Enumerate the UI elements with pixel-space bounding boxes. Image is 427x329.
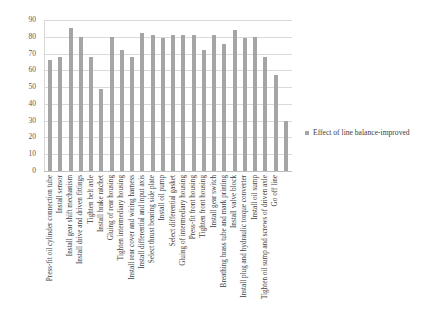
x-axis-label-slot: Tighten oil sump and screws of driven ax…	[260, 172, 270, 327]
bar-slot	[250, 20, 260, 171]
bar	[274, 75, 278, 171]
bar	[192, 35, 196, 171]
x-axis-label: Install oil sump	[252, 175, 259, 220]
x-axis-label: Install gear switch	[211, 175, 218, 228]
bar-slot	[168, 20, 178, 171]
bar-slot	[260, 20, 270, 171]
x-axis-label-slot: Install brake ratchet	[96, 172, 106, 327]
x-axis-label-slot: Tighten front housing	[199, 172, 209, 327]
y-axis-tick: 60	[29, 67, 37, 75]
y-axis-tick: 90	[29, 16, 37, 24]
y-axis-tick: 10	[29, 150, 37, 158]
y-axis-tick: 0	[32, 167, 36, 175]
bar	[110, 37, 114, 171]
x-axis-label-slot: Press-fit oil cylinder connection tube	[45, 172, 55, 327]
bar-slot	[209, 20, 219, 171]
bar-slot	[271, 20, 281, 171]
bar	[181, 35, 185, 171]
bar-slot	[127, 20, 137, 171]
legend-swatch-icon	[305, 131, 309, 135]
x-axis-label: Tighten front housing	[200, 175, 207, 237]
bar	[284, 121, 288, 171]
x-axis-label: Install plug and hydraulic torque conver…	[241, 175, 248, 298]
y-axis-tick: 50	[29, 83, 37, 91]
bar-slot	[219, 20, 229, 171]
bar-slot	[107, 20, 117, 171]
bar	[48, 60, 52, 171]
x-axis-label: Install oil pump	[159, 175, 166, 221]
bar-slot	[189, 20, 199, 171]
bar	[151, 35, 155, 171]
bar-slot	[178, 20, 188, 171]
bar-slot	[45, 20, 55, 171]
bar	[99, 89, 103, 171]
x-axis-label: Install drive and driven fittings	[77, 175, 84, 264]
bar	[79, 37, 83, 171]
chart-legend: Effect of line balance-improved	[305, 129, 410, 137]
bar-slot	[137, 20, 147, 171]
x-axis-label-slot: Select differential gasket	[168, 172, 178, 327]
x-axis-label: Install rear cover and wiring harness	[129, 175, 136, 280]
x-axis-label: Press-fit front housing	[190, 175, 197, 239]
x-axis-label: Tighten intermediary housing	[118, 175, 125, 260]
x-axis-label: Go off line	[272, 175, 279, 206]
bar-series	[44, 20, 292, 171]
bar	[161, 38, 165, 171]
x-axis-label-slot: Gluing of rear housing	[107, 172, 117, 327]
x-axis-label-slot: Install rear cover and wiring harness	[127, 172, 137, 327]
legend-label: Effect of line balance-improved	[313, 129, 410, 137]
x-axis-label-slot: Tighten belt axle	[86, 172, 96, 327]
y-axis-tick: 80	[29, 33, 37, 41]
x-axis-label: Install sensor	[57, 175, 64, 213]
x-axis-label-slot: Tighten intermediary housing	[117, 172, 127, 327]
y-axis-tick: 40	[29, 100, 37, 108]
x-axis-label: Install gear shift mechanism	[67, 175, 74, 256]
bar-slot	[230, 20, 240, 171]
x-axis-label-slot	[281, 172, 291, 327]
bar	[263, 57, 267, 171]
bar-slot	[117, 20, 127, 171]
x-axis-label-slot: Install drive and driven fittings	[76, 172, 86, 327]
bar-slot	[240, 20, 250, 171]
x-axis-label-slot: Press-fit front housing	[189, 172, 199, 327]
bar	[130, 57, 134, 171]
bar	[171, 35, 175, 171]
x-axis-label: Install valve block	[231, 175, 238, 228]
x-axis-label-slot: Go off line	[271, 172, 281, 327]
bar	[69, 28, 73, 171]
x-axis-label-slot: Install gear shift mechanism	[66, 172, 76, 327]
y-axis: 0102030405060708090	[0, 20, 40, 171]
bar	[233, 30, 237, 171]
bar-slot	[281, 20, 291, 171]
bar-slot	[86, 20, 96, 171]
bar-slot	[76, 20, 86, 171]
x-axis-label-slot: Install valve block	[230, 172, 240, 327]
x-axis-label: Select differential gasket	[170, 175, 177, 246]
x-axis-label: Breathing brass tube and mark printing	[221, 175, 228, 287]
x-axis-label: Install differential and input axis	[139, 175, 146, 269]
y-axis-tick: 30	[29, 117, 37, 125]
bar	[253, 37, 257, 171]
y-axis-tick: 70	[29, 50, 37, 58]
x-axis-labels: Press-fit oil cylinder connection tubeIn…	[44, 172, 292, 327]
bar	[202, 50, 206, 171]
x-axis-label-slot: Install differential and input axis	[137, 172, 147, 327]
y-axis-tick: 20	[29, 134, 37, 142]
bar-slot	[96, 20, 106, 171]
x-axis-label-slot: Install sensor	[55, 172, 65, 327]
x-axis-label-slot: Breathing brass tube and mark printing	[219, 172, 229, 327]
bar	[243, 38, 247, 171]
x-axis-label: Select thrust bearing side plate	[149, 175, 156, 263]
x-axis-label-slot: Install oil sump	[250, 172, 260, 327]
x-axis-label: Gluing of intermediary housing	[180, 175, 187, 266]
x-axis-label: Install brake ratchet	[98, 175, 105, 232]
bar-slot	[148, 20, 158, 171]
bar-slot	[55, 20, 65, 171]
x-axis-label-slot: Install gear switch	[209, 172, 219, 327]
bar	[212, 35, 216, 171]
x-axis-label-slot: Install oil pump	[158, 172, 168, 327]
bar-slot	[158, 20, 168, 171]
x-axis-label: Press-fit oil cylinder connection tube	[47, 175, 54, 281]
x-axis-label: Tighten belt axle	[88, 175, 95, 223]
bar	[140, 33, 144, 171]
